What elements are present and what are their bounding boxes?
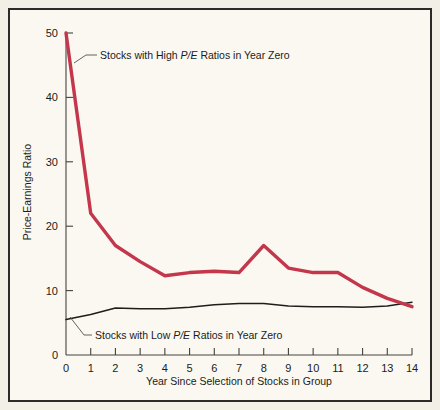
y-tick-label: 20 <box>46 220 58 232</box>
x-tick-label: 6 <box>211 362 217 374</box>
x-tick-label: 13 <box>381 362 393 374</box>
low-pe-annotation-label: Stocks with Low P/E Ratios in Year Zero <box>95 329 283 341</box>
y-tick-label: 40 <box>46 91 58 103</box>
low-pe-leader-line <box>70 317 92 335</box>
x-tick-label: 8 <box>261 362 267 374</box>
y-axis-title: Price-Earnings Ratio <box>21 144 33 240</box>
y-tick-label: 10 <box>46 285 58 297</box>
y-tick-label: 50 <box>46 27 58 39</box>
high-pe-leader-line <box>74 55 97 63</box>
x-tick-label: 0 <box>63 362 69 374</box>
x-tick-label: 9 <box>285 362 291 374</box>
chart-series-layer <box>66 33 412 320</box>
x-tick-label: 12 <box>356 362 368 374</box>
price-earnings-ratio-line-chart: 01020304050 01234567891011121314 Stocks … <box>0 0 440 410</box>
y-axis-ticks: 01020304050 <box>46 27 73 361</box>
low-pe-series-line <box>66 302 412 319</box>
chart-axes: 01020304050 01234567891011121314 <box>46 27 418 374</box>
y-tick-label: 0 <box>52 349 58 361</box>
x-tick-label: 3 <box>137 362 143 374</box>
x-tick-label: 10 <box>307 362 319 374</box>
chart-annotation-layer: Stocks with High P/E Ratios in Year Zero… <box>21 49 332 387</box>
x-tick-label: 4 <box>162 362 168 374</box>
x-tick-label: 5 <box>187 362 193 374</box>
x-tick-label: 1 <box>88 362 94 374</box>
x-tick-label: 14 <box>406 362 418 374</box>
x-axis-ticks: 01234567891011121314 <box>63 348 418 374</box>
x-tick-label: 2 <box>112 362 118 374</box>
x-tick-label: 11 <box>332 362 343 374</box>
x-tick-label: 7 <box>236 362 242 374</box>
x-axis-title: Year Since Selection of Stocks in Group <box>146 375 332 387</box>
high-pe-annotation-label: Stocks with High P/E Ratios in Year Zero <box>100 49 290 61</box>
chart-figure: 01020304050 01234567891011121314 Stocks … <box>0 0 440 410</box>
high-pe-series-line <box>66 33 412 307</box>
y-tick-label: 30 <box>46 156 58 168</box>
